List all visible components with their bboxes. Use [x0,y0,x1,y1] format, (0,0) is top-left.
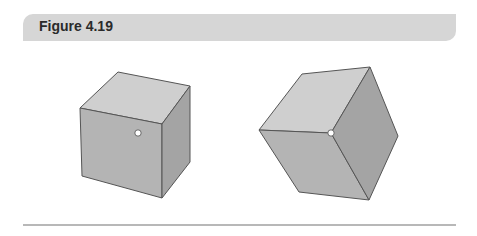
bottom-divider [23,224,456,226]
left-cube-front-face [80,108,162,198]
right-cube-point-marker [328,130,334,136]
left-cube [80,72,190,198]
figure-canvas [0,0,477,236]
left-cube-point-marker [135,130,141,136]
right-cube [259,67,398,200]
